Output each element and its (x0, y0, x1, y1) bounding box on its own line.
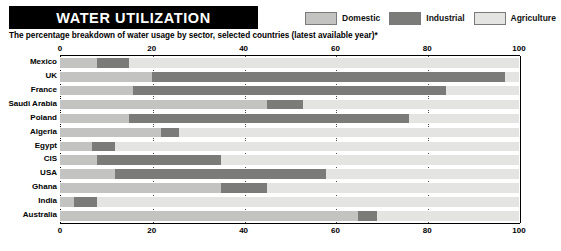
stacked-bar (60, 113, 519, 125)
stacked-bar (60, 154, 519, 166)
stacked-bar (60, 57, 519, 69)
bar-segment-domestic (60, 155, 97, 165)
country-label-algeria: Algeria (30, 127, 57, 136)
bar-row: Ghana (0, 181, 531, 195)
country-label-uk: UK (45, 71, 57, 80)
stacked-bar (60, 182, 519, 194)
bar-segment-domestic (60, 142, 92, 152)
bar-segment-industrial (97, 58, 129, 68)
bar-segment-agriculture (326, 169, 519, 179)
bar-segment-industrial (129, 114, 409, 124)
bar-row: Saudi Arabia (0, 98, 531, 112)
x-axis-ticks-bottom: 020406080100 (0, 226, 531, 237)
bar-segment-industrial (92, 142, 115, 152)
stacked-bar (60, 141, 519, 153)
x-tick-label: 20 (147, 226, 156, 235)
x-tick-label: 100 (512, 226, 525, 235)
stacked-bar (60, 210, 519, 222)
country-label-poland: Poland (30, 113, 57, 122)
legend-item-industrial: Industrial (389, 12, 464, 25)
bar-rows: MexicoUKFranceSaudi ArabiaPolandAlgeriaE… (0, 56, 531, 223)
bar-segment-agriculture (303, 100, 519, 110)
legend-label: Agriculture (511, 13, 556, 23)
legend-label: Industrial (426, 13, 464, 23)
stacked-bar (60, 85, 519, 97)
bar-row: Egypt (0, 140, 531, 154)
bar-segment-industrial (115, 169, 326, 179)
bar-row: Algeria (0, 126, 531, 140)
bar-segment-industrial (97, 155, 221, 165)
bar-segment-agriculture (97, 197, 519, 207)
bar-row: UK (0, 70, 531, 84)
country-label-ghana: Ghana (32, 182, 57, 191)
x-tick-label: 0 (58, 44, 62, 53)
bar-segment-industrial (133, 86, 445, 96)
bar-segment-industrial (221, 183, 267, 193)
country-label-india: India (38, 196, 57, 205)
bar-segment-agriculture (446, 86, 519, 96)
bar-segment-domestic (60, 197, 74, 207)
x-tick-label: 40 (239, 226, 248, 235)
bar-segment-domestic (60, 183, 221, 193)
x-tick-label: 80 (423, 44, 432, 53)
x-tick-label: 20 (147, 44, 156, 53)
x-axis-line-bottom (60, 223, 520, 224)
bar-segment-agriculture (267, 183, 519, 193)
country-label-usa: USA (40, 168, 57, 177)
chart-header: WATER UTILIZATION DomesticIndustrialAgri… (0, 6, 531, 30)
bar-segment-agriculture (129, 58, 519, 68)
x-axis-ticks-top: 020406080100 (0, 44, 531, 55)
x-tick-label: 0 (58, 226, 62, 235)
bar-row: USA (0, 167, 531, 181)
bar-segment-domestic (60, 86, 133, 96)
country-label-australia: Australia (23, 210, 57, 219)
bar-segment-agriculture (221, 155, 519, 165)
country-label-egypt: Egypt (35, 141, 57, 150)
legend-item-agriculture: Agriculture (474, 12, 556, 25)
country-label-france: France (31, 85, 57, 94)
bar-segment-industrial (152, 72, 505, 82)
x-tick-label: 100 (512, 44, 525, 53)
bar-segment-industrial (358, 211, 376, 221)
bar-segment-agriculture (409, 114, 519, 124)
country-label-saudi-arabia: Saudi Arabia (8, 99, 57, 108)
bar-row: France (0, 84, 531, 98)
bar-segment-domestic (60, 128, 161, 138)
bar-row: Australia (0, 209, 531, 223)
x-tick-label: 80 (423, 226, 432, 235)
page-title: WATER UTILIZATION (56, 10, 211, 26)
bar-segment-industrial (74, 197, 97, 207)
stacked-bar (60, 127, 519, 139)
chart-body: 020406080100 MexicoUKFranceSaudi ArabiaP… (0, 44, 531, 244)
legend-item-domestic: Domestic (305, 12, 380, 25)
x-tick-label: 60 (331, 44, 340, 53)
chart-legend: DomesticIndustrialAgriculture (305, 9, 561, 27)
bar-segment-domestic (60, 211, 358, 221)
x-tick-label: 40 (239, 44, 248, 53)
bar-segment-agriculture (505, 72, 519, 82)
legend-swatch-agriculture (474, 12, 506, 25)
stacked-bar (60, 71, 519, 83)
stacked-bar (60, 168, 519, 180)
bar-segment-domestic (60, 58, 97, 68)
bar-segment-domestic (60, 114, 129, 124)
bar-row: CIS (0, 153, 531, 167)
bar-row: Mexico (0, 56, 531, 70)
stacked-bar (60, 99, 519, 111)
title-banner: WATER UTILIZATION (9, 6, 258, 29)
country-label-mexico: Mexico (30, 57, 57, 66)
x-tick-label: 60 (331, 226, 340, 235)
bar-row: India (0, 195, 531, 209)
legend-swatch-industrial (389, 12, 421, 25)
bar-segment-industrial (267, 100, 304, 110)
bar-segment-domestic (60, 72, 152, 82)
country-label-cis: CIS (44, 154, 57, 163)
bar-segment-domestic (60, 100, 267, 110)
chart-subtitle: The percentage breakdown of water usage … (9, 31, 378, 40)
legend-label: Domestic (342, 13, 380, 23)
legend-swatch-domestic (305, 12, 337, 25)
stacked-bar (60, 196, 519, 208)
bar-segment-agriculture (377, 211, 519, 221)
bar-segment-agriculture (179, 128, 519, 138)
